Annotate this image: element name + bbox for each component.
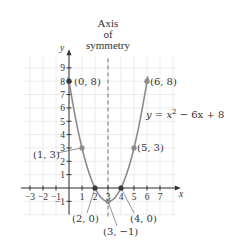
point-label-5-3: (5, 3) (137, 142, 164, 153)
x-tick-label: 4 (119, 192, 124, 202)
x-axis-label: x (178, 189, 184, 199)
y-tick-label: 1 (60, 170, 65, 180)
y-tick-label: 5 (60, 117, 65, 127)
data-point-marker (144, 79, 149, 84)
x-tick-label: 7 (158, 192, 163, 202)
point-label-0-8: (0, 8) (74, 76, 101, 87)
y-tick-label: 6 (60, 103, 65, 113)
axes (21, 49, 181, 215)
y-tick-label: 9 (60, 63, 65, 73)
equation-label: y = x2 − 6x + 8 (145, 108, 224, 120)
data-point-marker (118, 185, 123, 190)
axis-of-symmetry-title-line3: symmetry (86, 39, 130, 51)
x-tick-label: 1 (80, 192, 85, 202)
x-tick-label: 6 (145, 192, 150, 202)
leader-line (108, 201, 117, 226)
point-label-2-0: (2, 0) (72, 213, 99, 224)
x-tick-label: −3 (25, 192, 35, 202)
data-point-marker (92, 185, 97, 190)
point-label-6-8: (6, 8) (150, 76, 177, 87)
point-label-3-neg1: (3, −1) (103, 226, 138, 237)
point-label-4-0: (4, 0) (130, 213, 157, 224)
x-tick-label: −2 (38, 192, 48, 202)
parabola-graph: −3−2−11234567−1123456789 Axis of symmetr… (0, 0, 229, 250)
x-tick-label: 5 (132, 192, 137, 202)
y-tick-label: −1 (55, 197, 65, 207)
y-tick-label: 4 (60, 130, 65, 140)
data-point-marker (105, 199, 110, 204)
y-tick-label: 2 (60, 157, 65, 167)
data-point-marker (79, 145, 84, 150)
y-axis-arrow-icon (67, 49, 72, 55)
y-axis-label: y (59, 43, 65, 53)
point-label-1-3: (1, 3) (33, 149, 60, 160)
y-tick-label: 8 (60, 77, 65, 87)
data-point-marker (131, 145, 136, 150)
y-tick-label: 7 (60, 90, 65, 100)
data-point-marker (66, 79, 71, 84)
